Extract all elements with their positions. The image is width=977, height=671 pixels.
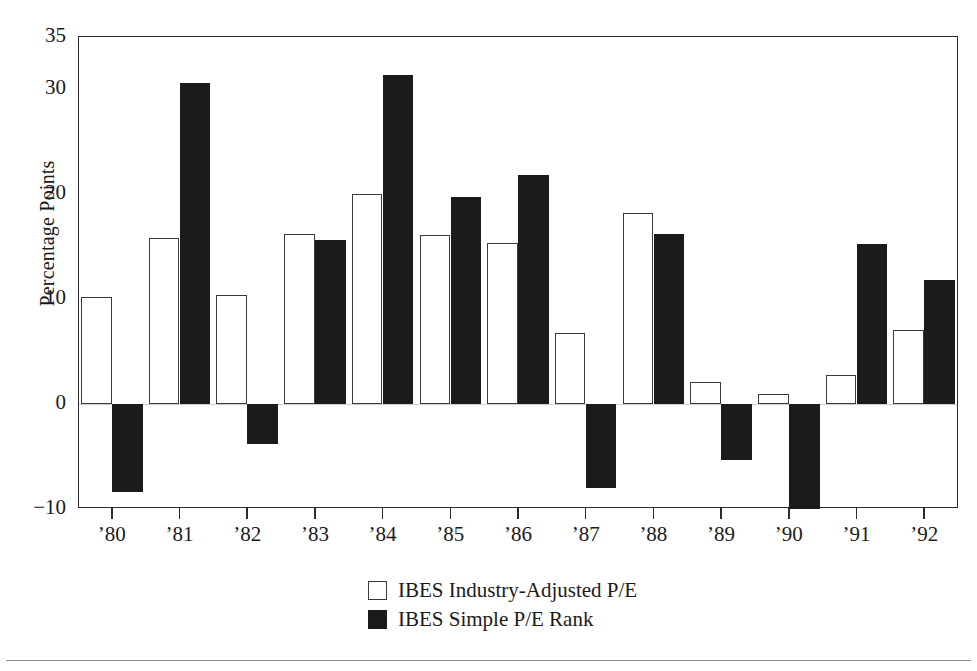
figure-bottom-rule xyxy=(6,660,971,661)
bar-industry-adjusted-88 xyxy=(623,213,654,404)
bar-industry-adjusted-89 xyxy=(690,382,721,404)
plot-area xyxy=(78,36,958,508)
y-tick-label-10: 10 xyxy=(0,287,66,308)
x-tick-label-84: ’84 xyxy=(351,524,415,545)
bar-industry-adjusted-90 xyxy=(758,394,789,404)
legend-swatch-black-icon xyxy=(368,610,387,629)
x-tick-90 xyxy=(788,508,790,519)
x-tick-85 xyxy=(450,508,452,519)
x-tick-83 xyxy=(314,508,316,519)
bar-industry-adjusted-84 xyxy=(352,194,383,404)
bar-simple-rank-82 xyxy=(247,404,278,444)
bar-industry-adjusted-86 xyxy=(487,243,518,405)
bar-simple-rank-90 xyxy=(789,404,820,509)
bar-simple-rank-81 xyxy=(180,83,211,404)
x-tick-label-89: ’89 xyxy=(689,524,753,545)
legend-label-industry-adjusted: IBES Industry-Adjusted P/E xyxy=(398,580,637,601)
bar-simple-rank-86 xyxy=(518,175,549,404)
bar-industry-adjusted-80 xyxy=(81,297,112,404)
legend-label-simple-rank: IBES Simple P/E Rank xyxy=(398,609,593,630)
chart-legend: IBES Industry-Adjusted P/E IBES Simple P… xyxy=(368,576,637,634)
bar-industry-adjusted-91 xyxy=(826,375,857,404)
bar-simple-rank-84 xyxy=(383,75,414,404)
x-tick-87 xyxy=(585,508,587,519)
plot-inner xyxy=(79,37,957,507)
x-tick-86 xyxy=(517,508,519,519)
chart-figure: Percentage Points 353020100−10 ’80’81’82… xyxy=(0,0,977,671)
bar-industry-adjusted-83 xyxy=(284,234,315,404)
bar-simple-rank-87 xyxy=(586,404,617,488)
y-tick-label-20: 20 xyxy=(0,182,66,203)
y-tick-label-0: 0 xyxy=(0,392,66,413)
bar-industry-adjusted-85 xyxy=(420,235,451,404)
legend-swatch-white-icon xyxy=(368,581,387,600)
legend-item-industry-adjusted: IBES Industry-Adjusted P/E xyxy=(368,576,637,605)
x-tick-label-86: ’86 xyxy=(486,524,550,545)
x-tick-label-92: ’92 xyxy=(892,524,956,545)
x-tick-80 xyxy=(111,508,113,519)
bar-simple-rank-83 xyxy=(315,240,346,404)
x-tick-88 xyxy=(653,508,655,519)
zero-reference-line xyxy=(79,404,957,405)
y-tick-label-35: 35 xyxy=(0,25,66,46)
bar-simple-rank-80 xyxy=(112,404,143,492)
bar-simple-rank-91 xyxy=(857,244,888,404)
bar-industry-adjusted-92 xyxy=(893,330,924,404)
x-tick-84 xyxy=(382,508,384,519)
legend-item-simple-rank: IBES Simple P/E Rank xyxy=(368,605,637,634)
bar-simple-rank-88 xyxy=(654,234,685,404)
x-tick-label-81: ’81 xyxy=(148,524,212,545)
x-tick-label-82: ’82 xyxy=(215,524,279,545)
x-tick-82 xyxy=(246,508,248,519)
x-tick-label-85: ’85 xyxy=(418,524,482,545)
x-tick-label-88: ’88 xyxy=(621,524,685,545)
x-tick-81 xyxy=(179,508,181,519)
bar-industry-adjusted-87 xyxy=(555,333,586,404)
y-axis-title: Percentage Points xyxy=(36,124,59,344)
bar-industry-adjusted-81 xyxy=(149,238,180,404)
x-tick-label-90: ’90 xyxy=(757,524,821,545)
bar-industry-adjusted-82 xyxy=(216,295,247,404)
bar-simple-rank-85 xyxy=(451,197,482,404)
x-tick-label-83: ’83 xyxy=(283,524,347,545)
x-tick-label-91: ’91 xyxy=(824,524,888,545)
x-tick-label-80: ’80 xyxy=(80,524,144,545)
bar-simple-rank-92 xyxy=(924,280,955,404)
x-tick-92 xyxy=(923,508,925,519)
y-tick-label--10: −10 xyxy=(0,497,66,518)
x-tick-91 xyxy=(856,508,858,519)
x-tick-89 xyxy=(720,508,722,519)
bar-simple-rank-89 xyxy=(721,404,752,460)
y-tick-label-30: 30 xyxy=(0,77,66,98)
x-tick-label-87: ’87 xyxy=(554,524,618,545)
